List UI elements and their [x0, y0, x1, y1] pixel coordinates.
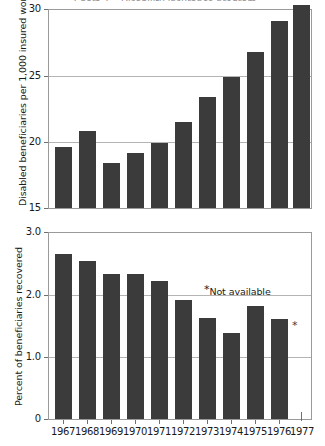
xtick-mark-1975	[255, 420, 256, 424]
xtick-label-1975: 1975	[242, 426, 268, 437]
bar-bottom-1967	[55, 254, 72, 419]
bottom-ytick-mark-3	[44, 232, 48, 233]
missing-data-marker-1977: *	[292, 322, 298, 330]
xtick-mark-1972	[183, 420, 184, 424]
not-available-note: *Not available	[204, 283, 271, 297]
bar-bottom-1973	[199, 318, 216, 419]
xtick-label-1970: 1970	[122, 426, 148, 437]
bar-bottom-1972	[175, 300, 192, 419]
bottom-y-axis-title: Percent of beneficiaries recovered	[13, 247, 24, 406]
bar-bottom-1970	[127, 274, 144, 419]
bottom-ytick-mark-0	[44, 419, 48, 420]
xtick-mark-1973	[207, 420, 208, 424]
bottom-chart-panel: 3.0 2.0 1.0 0 Percent of beneficiaries r…	[0, 0, 325, 446]
xtick-mark-1968	[87, 420, 88, 424]
bottom-ytick-mark-1	[44, 357, 48, 358]
bar-bottom-1969	[103, 274, 120, 419]
xtick-mark-1971	[159, 420, 160, 424]
xtick-mark-1977	[301, 412, 302, 421]
xtick-label-1971: 1971	[146, 426, 172, 437]
xtick-mark-1970	[135, 420, 136, 424]
xtick-label-1968: 1968	[74, 426, 100, 437]
bottom-ytick-label-3: 3.0	[16, 227, 41, 237]
xtick-mark-1967	[63, 420, 64, 424]
bar-bottom-1971	[151, 281, 168, 419]
bar-bottom-1974	[223, 333, 240, 419]
xtick-label-1974: 1974	[218, 426, 244, 437]
xtick-mark-1969	[111, 420, 112, 424]
xtick-label-1973: 1973	[194, 426, 220, 437]
disability-insurance-figure: Chart 2.—Disability insurance program 30…	[0, 0, 325, 446]
bar-bottom-1975	[247, 306, 264, 419]
bottom-ytick-mark-2	[44, 295, 48, 296]
xtick-label-1977: 1977	[289, 426, 315, 437]
xtick-mark-1974	[231, 420, 232, 424]
bottom-ytick-label-0: 0	[16, 414, 41, 424]
xtick-label-1967: 1967	[50, 426, 76, 437]
xtick-label-1969: 1969	[98, 426, 124, 437]
xtick-label-1972: 1972	[170, 426, 196, 437]
xtick-mark-1976	[279, 420, 280, 424]
not-available-text: Not available	[209, 286, 270, 297]
bar-bottom-1968	[79, 261, 96, 419]
bar-bottom-1976	[271, 319, 288, 419]
